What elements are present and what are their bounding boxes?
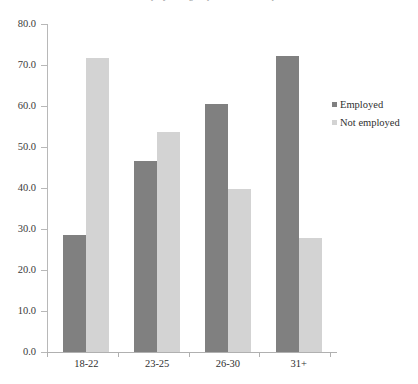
y-axis-tick: 60.0 bbox=[41, 106, 47, 107]
y-axis-line bbox=[47, 24, 48, 352]
y-axis-tick: 40.0 bbox=[41, 188, 47, 189]
x-axis-category-label: 18-22 bbox=[63, 358, 109, 369]
legend-item-label: Not employed bbox=[340, 117, 400, 128]
bar-chart-figure: the employment grouped bar chart caption… bbox=[0, 0, 418, 384]
y-axis-tick-label: 60.0 bbox=[18, 99, 36, 112]
chart-legend: EmployedNot employed bbox=[332, 96, 416, 132]
y-axis-tick-label: 40.0 bbox=[18, 181, 36, 194]
bar-not-employed bbox=[228, 189, 251, 352]
x-axis-category-label: 23-25 bbox=[134, 358, 180, 369]
bar-not-employed bbox=[157, 132, 180, 352]
x-axis-tick bbox=[330, 352, 331, 357]
y-axis-tick: 30.0 bbox=[41, 229, 47, 230]
y-axis-tick: 70.0 bbox=[41, 65, 47, 66]
x-axis-category-label: 26-30 bbox=[205, 358, 251, 369]
bar-group: 26-30 bbox=[205, 24, 251, 352]
bar-group: 23-25 bbox=[134, 24, 180, 352]
x-axis-tick bbox=[118, 352, 119, 357]
bar-group: 31+ bbox=[276, 24, 322, 352]
bar-group: 18-22 bbox=[63, 24, 109, 352]
y-axis-tick-label: 20.0 bbox=[18, 263, 36, 276]
y-axis-tick: 20.0 bbox=[41, 270, 47, 271]
x-axis-category-label: 31+ bbox=[276, 358, 322, 369]
legend-swatch-icon bbox=[332, 120, 337, 125]
y-axis-tick-label: 80.0 bbox=[18, 17, 36, 30]
bar-employed bbox=[276, 56, 299, 352]
legend-item-label: Employed bbox=[340, 99, 383, 110]
x-axis-tick bbox=[189, 352, 190, 357]
y-axis-tick-label: 30.0 bbox=[18, 222, 36, 235]
bar-employed bbox=[63, 235, 86, 352]
bar-not-employed bbox=[86, 58, 109, 352]
y-axis-tick-label: 10.0 bbox=[18, 304, 36, 317]
y-axis-tick-label: 70.0 bbox=[18, 58, 36, 71]
y-axis-tick: 10.0 bbox=[41, 311, 47, 312]
legend-item[interactable]: Not employed bbox=[332, 114, 416, 130]
clipped-caption-text: the employment grouped bar chart caption bbox=[0, 0, 418, 3]
x-axis-tick bbox=[47, 352, 48, 357]
legend-swatch-icon bbox=[332, 102, 337, 107]
bar-employed bbox=[205, 104, 228, 352]
y-axis-tick-label: 50.0 bbox=[18, 140, 36, 153]
legend-item[interactable]: Employed bbox=[332, 96, 416, 112]
x-axis-tick bbox=[259, 352, 260, 357]
plot-area: 0.010.020.030.040.050.060.070.080.0 18-2… bbox=[47, 24, 330, 352]
y-axis-tick: 50.0 bbox=[41, 147, 47, 148]
y-axis-tick: 80.0 bbox=[41, 24, 47, 25]
y-axis-tick-label: 0.0 bbox=[23, 345, 36, 358]
bar-not-employed bbox=[299, 238, 322, 352]
bar-employed bbox=[134, 161, 157, 352]
